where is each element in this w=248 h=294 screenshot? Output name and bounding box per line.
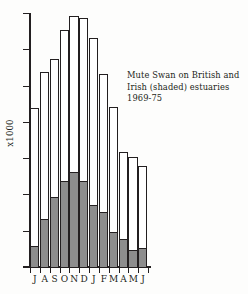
x-axis-tick bbox=[79, 268, 80, 273]
bar-shaded bbox=[89, 205, 98, 269]
y-axis-title: x1000 bbox=[5, 107, 15, 159]
chart-figure: x1000 76543210 JASONDJFMAMJ Mute Swan on… bbox=[0, 0, 248, 294]
y-axis-tick bbox=[23, 158, 30, 159]
x-axis-tick bbox=[109, 268, 110, 273]
bar-group bbox=[69, 14, 78, 268]
plot-area bbox=[30, 12, 148, 268]
x-axis-tick bbox=[30, 268, 31, 273]
y-axis-tick bbox=[23, 231, 30, 232]
annotation-line: 1969-75 bbox=[127, 93, 245, 105]
bar-group bbox=[119, 14, 128, 268]
bar-group bbox=[109, 14, 118, 268]
x-axis-tick bbox=[50, 268, 51, 273]
bar-group bbox=[50, 14, 59, 268]
x-axis-tick bbox=[148, 268, 149, 273]
y-axis-tick bbox=[23, 122, 30, 123]
bar-shaded bbox=[50, 197, 59, 268]
bar-shaded bbox=[99, 212, 108, 268]
bar-shaded bbox=[40, 219, 49, 268]
x-axis-tick bbox=[128, 268, 129, 273]
bar-shaded bbox=[119, 239, 128, 268]
bar-total bbox=[30, 108, 39, 268]
bar-group bbox=[128, 14, 137, 268]
y-axis-tick bbox=[23, 13, 30, 14]
bar-group bbox=[30, 14, 39, 268]
annotation-line: Mute Swan on British and bbox=[127, 70, 245, 82]
bar-group bbox=[89, 14, 98, 268]
x-axis-tick bbox=[119, 268, 120, 273]
y-axis-tick bbox=[23, 49, 30, 50]
bar-group bbox=[99, 14, 108, 268]
x-axis-tick-label: J bbox=[136, 274, 150, 284]
x-axis-tick bbox=[40, 268, 41, 273]
bar-group bbox=[60, 14, 69, 268]
bar-shaded bbox=[79, 181, 88, 268]
x-axis-tick bbox=[60, 268, 61, 273]
x-axis-tick bbox=[69, 268, 70, 273]
x-axis-tick bbox=[99, 268, 100, 273]
bar-shaded bbox=[30, 246, 39, 268]
y-axis-tick bbox=[23, 86, 30, 87]
bar-group bbox=[138, 14, 147, 268]
annotation-line: Irish (shaded) estuaries bbox=[127, 82, 245, 94]
bar-shaded bbox=[60, 181, 69, 268]
bar-shaded bbox=[109, 232, 118, 268]
y-axis-tick bbox=[23, 267, 30, 268]
chart-annotation: Mute Swan on British andIrish (shaded) e… bbox=[127, 70, 245, 105]
y-axis-tick bbox=[23, 194, 30, 195]
bar-shaded bbox=[138, 248, 147, 268]
bar-group bbox=[40, 14, 49, 268]
bar-shaded bbox=[128, 250, 137, 268]
bar-group bbox=[79, 14, 88, 268]
bar-shaded bbox=[69, 172, 78, 268]
x-axis-tick bbox=[138, 268, 139, 273]
x-axis-tick bbox=[89, 268, 90, 273]
